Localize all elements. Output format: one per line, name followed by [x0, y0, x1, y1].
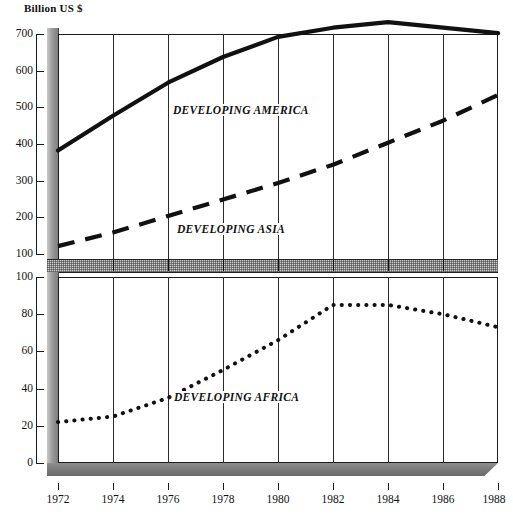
- chart-page: Billion US $ 700 600 500 400 300 200 100: [0, 0, 513, 525]
- scan-edge-artifact: [6, 515, 9, 524]
- x-tick-1976: [168, 483, 169, 490]
- x-label-1976: 1976: [144, 493, 192, 505]
- x-tick-1986: [443, 483, 444, 490]
- x-tick-1978: [223, 483, 224, 490]
- x-tick-1984: [388, 483, 389, 490]
- x-tick-1972: [58, 483, 59, 490]
- bottom-chart-panel: 100 80 60 40 20 0 DEVELOPING AFRICA: [0, 0, 513, 525]
- x-label-1986: 1986: [419, 493, 467, 505]
- x-label-1972: 1972: [34, 493, 82, 505]
- series-label-developing-africa: DEVELOPING AFRICA: [172, 391, 301, 403]
- x-tick-1988: [498, 483, 499, 490]
- x-label-1984: 1984: [364, 493, 412, 505]
- x-label-1974: 1974: [89, 493, 137, 505]
- x-label-1982: 1982: [309, 493, 357, 505]
- x-label-1988: 1988: [470, 493, 513, 505]
- x-tick-1982: [333, 483, 334, 490]
- bottom-series-svg: [0, 0, 513, 525]
- series-line-developing-africa: [58, 305, 498, 422]
- x-tick-1980: [278, 483, 279, 490]
- x-label-1980: 1980: [254, 493, 302, 505]
- x-label-1978: 1978: [199, 493, 247, 505]
- x-tick-1974: [113, 483, 114, 490]
